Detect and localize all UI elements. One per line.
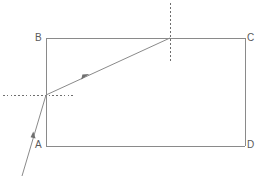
rectangular-block <box>46 38 245 146</box>
vertex-label-a: A <box>35 140 42 150</box>
refracted-ray-arrowhead <box>81 74 89 80</box>
refracted-ray <box>46 38 170 95</box>
vertex-label-d: D <box>247 140 254 150</box>
vertex-label-b: B <box>35 33 42 43</box>
diagram-canvas <box>0 0 259 180</box>
optics-ray-diagram: A B C D <box>0 0 259 180</box>
vertex-label-c: C <box>247 33 254 43</box>
